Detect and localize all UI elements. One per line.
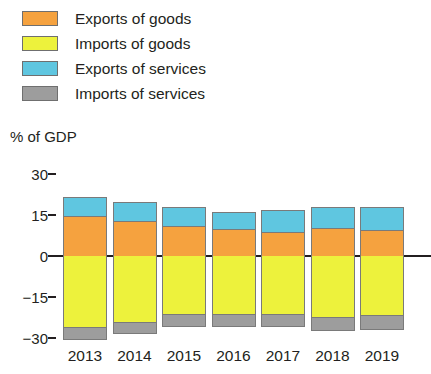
bar-group-2014	[113, 0, 157, 374]
bar-segment	[261, 314, 305, 327]
bar-segment	[162, 256, 206, 314]
bar-segment	[360, 256, 404, 315]
bar-segment	[113, 221, 157, 256]
x-axis-tick-label: 2016	[206, 347, 262, 365]
y-axis-tick-mark	[48, 296, 56, 298]
bar-segment	[212, 314, 256, 327]
bar-segment	[311, 256, 355, 317]
x-axis-tick-label: 2019	[354, 347, 410, 365]
bar-segment	[360, 315, 404, 330]
x-axis-tick-label: 2015	[156, 347, 212, 365]
bar-group-2016	[212, 0, 256, 374]
bar-segment	[360, 207, 404, 230]
bar-segment	[162, 207, 206, 226]
bar-group-2013	[63, 0, 107, 374]
bar-group-2017	[261, 0, 305, 374]
bar-segment	[311, 228, 355, 256]
bar-segment	[63, 256, 107, 327]
x-axis-tick-label: 2013	[57, 347, 113, 365]
bar-segment	[113, 202, 157, 221]
bar-segment	[63, 197, 107, 216]
bar-segment	[360, 230, 404, 256]
chart-plot-area: 30150−15−30 2013201420152016201720182019	[0, 0, 431, 374]
bar-segment	[212, 256, 256, 314]
y-axis-tick-mark	[48, 337, 56, 339]
x-axis-tick-label: 2014	[107, 347, 163, 365]
bar-segment	[162, 226, 206, 256]
y-axis-tick-label: −15	[23, 288, 48, 305]
bar-segment	[113, 322, 157, 334]
bar-segment	[311, 317, 355, 331]
bar-segment	[212, 229, 256, 256]
y-axis-tick-mark	[48, 214, 56, 216]
y-axis-tick-mark	[48, 255, 56, 257]
bar-group-2019	[360, 0, 404, 374]
y-axis-tick-label: −30	[23, 329, 48, 346]
bar-group-2018	[311, 0, 355, 374]
y-axis-tick-label: 15	[31, 207, 48, 224]
bar-segment	[63, 327, 107, 340]
bar-segment	[162, 314, 206, 327]
bar-group-2015	[162, 0, 206, 374]
bar-segment	[261, 232, 305, 256]
bar-segment	[63, 216, 107, 256]
bar-segment	[311, 207, 355, 228]
x-axis-tick-label: 2017	[255, 347, 311, 365]
bar-segment	[212, 212, 256, 229]
y-axis-tick-label: 0	[40, 248, 48, 265]
bar-segment	[261, 256, 305, 314]
y-axis-tick-mark	[48, 173, 56, 175]
bar-segment	[113, 256, 157, 322]
bar-segment	[261, 210, 305, 232]
x-axis-tick-label: 2018	[305, 347, 361, 365]
y-axis-tick-label: 30	[31, 166, 48, 183]
